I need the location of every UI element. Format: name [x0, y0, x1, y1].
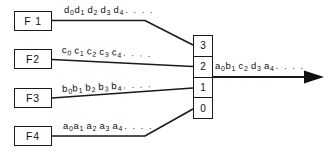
mux-cell-0[interactable]: 0	[194, 98, 212, 118]
stream-label-f4: a0a1 a2 a3 a4. . . .	[63, 120, 153, 131]
mux-cell-3[interactable]: 3	[194, 36, 212, 57]
mux-cell-3-label: 3	[200, 40, 206, 51]
output-sub2: 2	[244, 65, 248, 72]
stream-f3-sub0: 0	[68, 87, 73, 94]
stream-f1-sub2: 2	[94, 9, 98, 16]
multiplexer-box[interactable]: 3 2 1 0	[193, 35, 213, 119]
source-box-f3[interactable]: F3	[14, 88, 52, 108]
stream-f2-sub1: 1	[80, 50, 85, 57]
source-box-f2-label: F2	[26, 53, 40, 65]
mux-cell-0-label: 0	[200, 103, 206, 114]
mux-cell-1[interactable]: 1	[194, 78, 212, 99]
multiplexer-diagram: F 1 F2 F3 F4 d0d1 d2 d3 d4. . . . c0 c1 …	[0, 0, 331, 156]
stream-f2-dots: . . . .	[121, 48, 152, 59]
output-dots: . . . .	[274, 61, 304, 71]
stream-f3-sub3: 3	[104, 85, 109, 92]
output-sub3: 3	[257, 65, 261, 72]
stream-f1-sub0: 0	[70, 9, 74, 16]
stream-f4-sub3: 3	[106, 125, 110, 132]
stream-f4-sub4: 4	[119, 125, 123, 132]
stream-f1-dots: . . . .	[124, 5, 154, 15]
stream-f3-sub2: 2	[91, 86, 96, 93]
output-sub4: 4	[270, 65, 274, 72]
source-box-f1[interactable]: F 1	[14, 11, 52, 31]
source-box-f3-label: F3	[26, 92, 40, 104]
stream-f1-sub4: 4	[120, 9, 124, 16]
stream-f2-sub0: 0	[67, 49, 72, 56]
stream-f4-sub1: 1	[79, 125, 83, 132]
stream-f3-sub1: 1	[78, 87, 83, 94]
source-box-f4-label: F4	[26, 130, 40, 142]
link-f1-to-port3	[52, 21, 193, 46]
source-box-f4[interactable]: F4	[14, 126, 52, 146]
stream-f4-sub0: 0	[69, 125, 73, 132]
link-f2-to-port2	[52, 60, 193, 67]
stream-f3-dots: . . . .	[122, 79, 153, 91]
stream-f3-sub4: 4	[117, 85, 122, 92]
output-sub0: 0	[221, 65, 225, 72]
output-arrowhead	[304, 71, 324, 84]
stream-f2-sub2: 2	[92, 50, 97, 57]
stream-f4-dots: . . . .	[123, 121, 153, 131]
stream-f1-sub1: 1	[80, 9, 84, 16]
source-box-f2[interactable]: F2	[14, 49, 52, 69]
output-stream-label: a0b1 c2 d3 a4. . . .	[215, 60, 305, 71]
stream-f1-sub3: 3	[107, 9, 111, 16]
mux-cell-1-label: 1	[200, 82, 206, 93]
stream-f4-sub2: 2	[93, 125, 97, 132]
stream-f2-sub4: 4	[117, 52, 122, 59]
output-sub1: 1	[231, 65, 235, 72]
stream-label-f1: d0d1 d2 d3 d4. . . .	[64, 4, 154, 15]
stream-f2-sub3: 3	[105, 51, 110, 58]
source-box-f1-label: F 1	[24, 15, 42, 27]
mux-cell-2-label: 2	[200, 61, 206, 72]
mux-cell-2[interactable]: 2	[194, 57, 212, 78]
